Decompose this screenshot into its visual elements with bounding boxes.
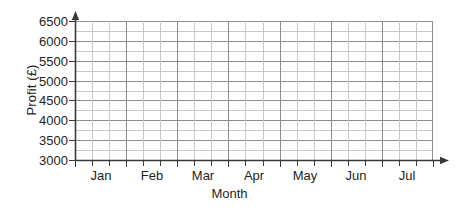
x-tick-mark-minor [211,160,212,166]
plot-area [75,21,433,160]
y-tick-label: 3000 [26,154,68,167]
x-tick-mark-major [126,160,127,167]
gridline-v-minor [399,21,400,160]
gridline-h-major [75,41,433,42]
gridline-h-major [75,160,433,161]
gridline-h-major [75,21,433,22]
x-tick-mark-minor [160,160,161,166]
gridline-h-minor [75,51,433,52]
gridline-v-minor [245,21,246,160]
y-tick-mark [69,61,76,62]
gridline-v-major [177,21,178,160]
profit-month-chart: Profit (£) 30003500400045005000550060006… [0,0,467,210]
gridline-v-minor [92,21,93,160]
gridline-h-major [75,140,433,141]
y-tick-mark [69,140,76,141]
x-tick-mark-minor [245,160,246,166]
gridline-v-minor [348,21,349,160]
y-tick-label: 5500 [26,55,68,68]
gridline-v-minor [365,21,366,160]
gridline-h-minor [75,91,433,92]
y-tick-label: 3500 [26,134,68,147]
x-tick-mark-minor [365,160,366,166]
gridline-v-minor [297,21,298,160]
y-tick-label: 6000 [26,35,68,48]
gridline-v-major [382,21,383,160]
y-tick-mark [69,100,76,101]
gridline-h-minor [75,31,433,32]
y-tick-mark [69,120,76,121]
gridline-v-minor [143,21,144,160]
gridline-v-minor [194,21,195,160]
x-tick-mark-major [228,160,229,167]
gridline-h-major [75,81,433,82]
gridline-v-minor [416,21,417,160]
x-tick-mark-minor [92,160,93,166]
x-tick-mark-minor [263,160,264,166]
y-tick-label: 6500 [26,15,68,28]
gridline-v-major [280,21,281,160]
gridline-v-major [432,21,433,160]
gridline-h-minor [75,110,433,111]
x-axis-title: Month [0,186,467,201]
gridline-v-major [228,21,229,160]
x-tick-mark-minor [143,160,144,166]
x-axis-title-text: Month [211,186,247,201]
x-tick-mark-major [75,160,76,167]
x-tick-mark-major [280,160,281,167]
x-tick-mark-major [331,160,332,167]
x-tick-mark-major [382,160,383,167]
x-tick-mark-minor [348,160,349,166]
gridline-v-minor [160,21,161,160]
gridline-h-major [75,100,433,101]
x-tick-mark-minor [314,160,315,166]
gridline-v-minor [314,21,315,160]
x-tick-mark-minor [194,160,195,166]
gridline-h-major [75,120,433,121]
y-axis-tick-labels: 30003500400045005000550060006500 [26,0,68,210]
gridline-h-minor [75,71,433,72]
x-axis-arrow-icon [440,157,449,164]
x-tick-mark-major [177,160,178,167]
y-tick-mark [69,81,76,82]
x-tick-label: Jul [377,169,437,183]
y-tick-mark [69,21,76,22]
y-tick-label: 4000 [26,114,68,127]
x-tick-mark-major [433,160,434,167]
x-tick-mark-minor [399,160,400,166]
gridline-v-minor [109,21,110,160]
gridline-v-minor [263,21,264,160]
x-tick-mark-minor [109,160,110,166]
gridline-h-major [75,61,433,62]
y-tick-label: 4500 [26,94,68,107]
gridline-v-major [126,21,127,160]
y-tick-label: 5000 [26,75,68,88]
gridline-v-minor [211,21,212,160]
y-tick-mark [69,41,76,42]
x-tick-mark-minor [297,160,298,166]
y-axis-arrow-icon [72,11,79,20]
gridline-v-major [331,21,332,160]
gridline-h-minor [75,130,433,131]
gridline-h-minor [75,150,433,151]
x-tick-mark-minor [416,160,417,166]
